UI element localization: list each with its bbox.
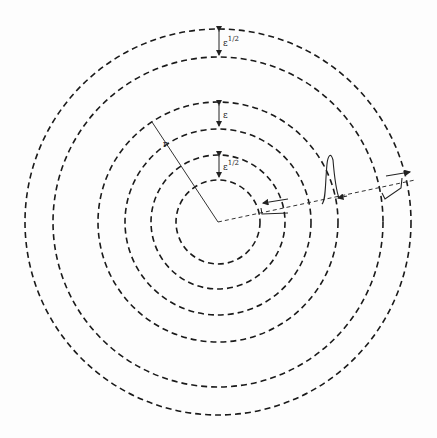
radius-label: r [163,139,168,149]
arrow-outer [386,172,410,176]
concentric-circles-figure: r ε1/2 ε ε1/2 [0,0,437,438]
segment-inner [261,208,288,214]
segment-outer [382,178,402,199]
diagram-canvas: r ε1/2 ε ε1/2 [0,0,437,438]
gap-outer-label: ε1/2 [223,35,239,48]
gap-middle-label: ε [223,110,228,120]
gap-inner-label: ε1/2 [223,159,239,172]
arrow-middle [338,196,347,198]
ray-line [218,180,415,222]
radius-line [152,122,218,222]
arrow-inner [263,199,288,203]
